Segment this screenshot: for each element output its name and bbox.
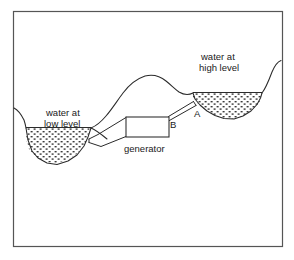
high-water-fill — [193, 93, 262, 119]
low-level-label-line1: water at — [45, 107, 80, 118]
pipe-generator-to-low — [89, 118, 126, 147]
high-level-label-line2: high level — [199, 62, 239, 73]
pipe-low-upper-wall — [89, 118, 126, 140]
point-a-label: A — [194, 108, 201, 119]
generator-box[interactable] — [126, 117, 169, 137]
low-level-reservoir — [26, 128, 91, 165]
pipe-low-lower-wall — [89, 137, 126, 147]
figure-root: water at low level water at high level g… — [0, 0, 294, 260]
high-level-reservoir — [193, 93, 262, 120]
low-water-fill — [26, 128, 90, 163]
left-terrain-slope — [14, 108, 26, 128]
generator-label: generator — [124, 143, 165, 154]
high-level-label-line1: water at — [200, 51, 235, 62]
diagram-canvas: water at low level water at high level g… — [0, 0, 294, 260]
right-terrain-slope — [262, 61, 281, 94]
pipe-high-intake-cap — [194, 102, 197, 106]
low-level-label-line2: low level — [44, 118, 80, 129]
point-b-label: B — [170, 119, 176, 130]
